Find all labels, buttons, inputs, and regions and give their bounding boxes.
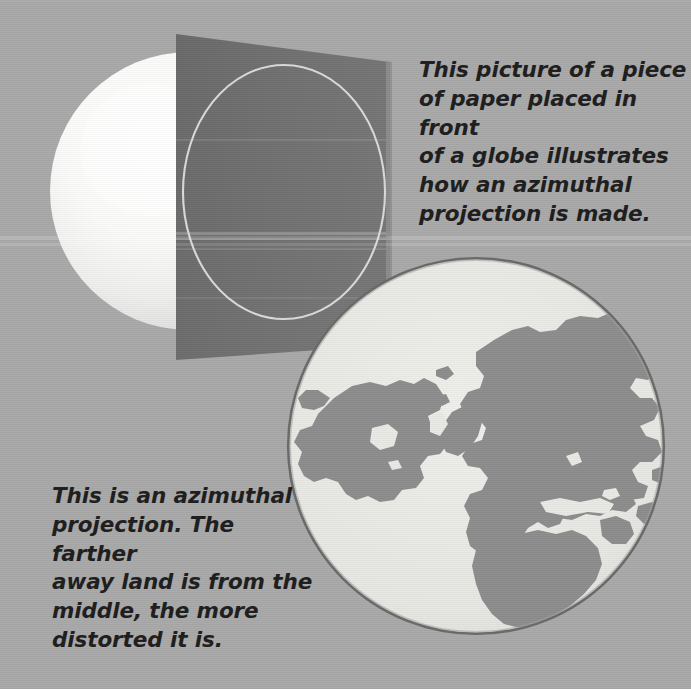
illustration-page: This picture of a piece of paper placed … (0, 0, 691, 689)
caption-azimuthal-projection: This is an azimuthal projection. The far… (52, 482, 320, 655)
caption-paper-globe: This picture of a piece of paper placed … (419, 56, 687, 229)
